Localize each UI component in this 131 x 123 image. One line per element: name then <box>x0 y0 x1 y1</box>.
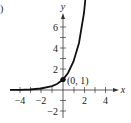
y-tick-label: −2 <box>47 106 58 117</box>
y-tick-label: 6 <box>53 22 58 33</box>
x-tick-label: −2 <box>36 95 47 106</box>
exponential-graph: −4 −2 2 4 −2 2 4 6 x y (0, 1) ) <box>0 0 131 123</box>
point-marker <box>60 77 65 82</box>
x-axis-label: x <box>120 84 126 95</box>
y-tick-label: 4 <box>53 43 58 54</box>
x-tick-label: 2 <box>82 95 87 106</box>
x-axis-arrow-icon <box>113 88 119 92</box>
y-axis-arrow-icon <box>61 13 65 19</box>
x-tick-label: 4 <box>103 95 108 106</box>
x-tick-label: −4 <box>15 95 26 106</box>
panel-label: ) <box>0 3 3 15</box>
point-label: (0, 1) <box>67 75 89 87</box>
y-axis-label: y <box>60 1 66 12</box>
y-tick-label: 2 <box>53 64 58 75</box>
